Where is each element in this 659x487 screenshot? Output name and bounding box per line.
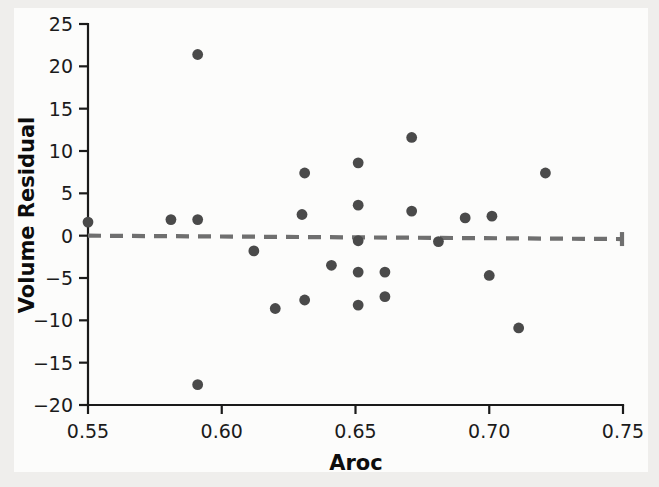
data-point — [353, 200, 364, 211]
axes — [79, 24, 623, 414]
data-point — [406, 206, 417, 217]
data-point — [192, 214, 203, 225]
data-point — [406, 132, 417, 143]
y-tick-label: −5 — [45, 267, 73, 289]
figure-container: 2520151050−5−10−15−20 0.550.600.650.700.… — [0, 0, 659, 487]
y-axis-title: Volume Residual — [15, 117, 39, 314]
data-points — [83, 49, 551, 390]
data-point — [353, 267, 364, 278]
data-point — [297, 209, 308, 220]
data-point — [433, 236, 444, 247]
x-tick-label: 0.55 — [67, 420, 109, 442]
data-point — [248, 246, 259, 257]
y-tick-label: 20 — [49, 55, 73, 77]
y-tick-label: 10 — [49, 140, 73, 162]
x-tick-label: 0.65 — [334, 420, 376, 442]
y-tick-label: 25 — [49, 13, 73, 35]
data-point — [299, 168, 310, 179]
y-tick-label: 0 — [61, 225, 73, 247]
y-tick-label: −15 — [33, 352, 73, 374]
data-point — [487, 211, 498, 222]
data-point — [270, 303, 281, 314]
data-point — [192, 379, 203, 390]
data-point — [326, 260, 337, 271]
data-point — [484, 270, 495, 281]
data-point — [83, 217, 94, 228]
scatter-plot: 2520151050−5−10−15−20 0.550.600.650.700.… — [0, 0, 659, 487]
x-tick-label: 0.60 — [201, 420, 243, 442]
data-point — [380, 267, 391, 278]
data-point — [513, 323, 524, 334]
x-tick-label: 0.75 — [602, 420, 644, 442]
data-point — [460, 212, 471, 223]
data-point — [166, 214, 177, 225]
data-point — [192, 49, 203, 60]
data-point — [353, 300, 364, 311]
y-tick-label: −20 — [33, 394, 73, 416]
x-axis-title: Aroc — [329, 451, 382, 475]
data-point — [380, 291, 391, 302]
data-point — [353, 157, 364, 168]
x-tick-label: 0.70 — [468, 420, 510, 442]
data-point — [540, 168, 551, 179]
x-tick-labels: 0.550.600.650.700.75 — [67, 420, 644, 442]
axis-spines — [88, 24, 623, 405]
data-point — [299, 295, 310, 306]
y-tick-label: 5 — [61, 182, 73, 204]
y-tick-label: 15 — [49, 98, 73, 120]
data-point — [353, 235, 364, 246]
